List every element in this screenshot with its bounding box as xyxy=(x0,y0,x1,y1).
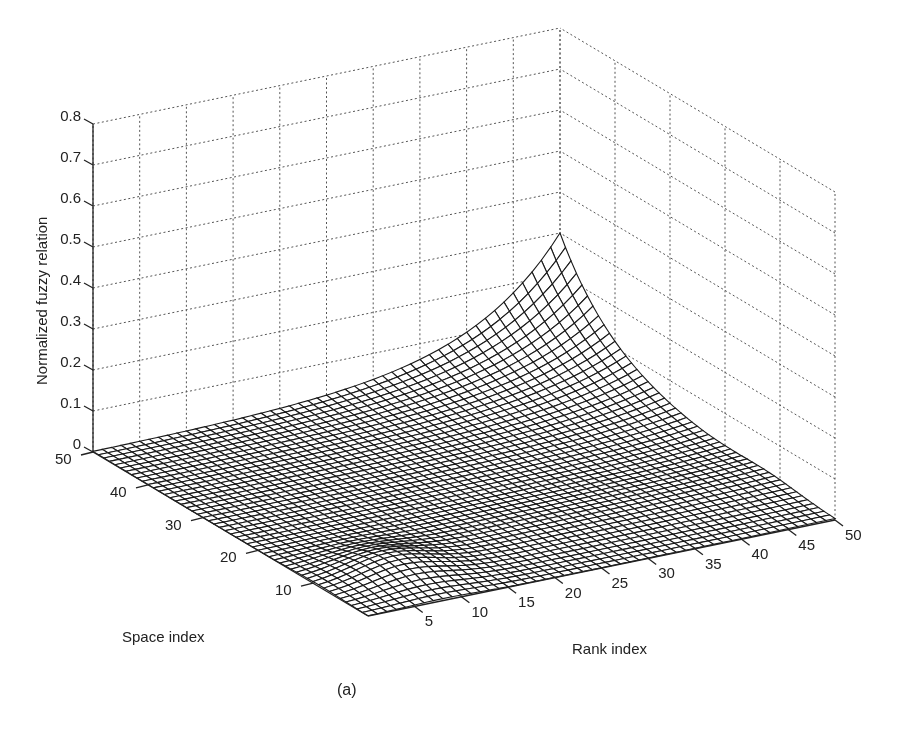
z-tick-label: 0.8 xyxy=(21,107,81,124)
y-tick-label: 40 xyxy=(110,483,127,500)
z-axis-label: Normalized fuzzy relation xyxy=(33,217,50,385)
x-tick-label: 30 xyxy=(658,564,675,581)
x-tick-label: 10 xyxy=(471,603,488,620)
y-axis-label: Space index xyxy=(122,628,205,645)
figure-caption: (a) xyxy=(337,681,357,699)
x-tick-label: 45 xyxy=(798,536,815,553)
z-tick-label: 0.3 xyxy=(21,312,81,329)
x-tick-label: 20 xyxy=(565,584,582,601)
z-tick-label: 0 xyxy=(21,435,81,452)
x-tick-label: 35 xyxy=(705,555,722,572)
y-tick-label: 20 xyxy=(220,548,237,565)
z-tick-label: 0.6 xyxy=(21,189,81,206)
y-tick-label: 10 xyxy=(275,581,292,598)
z-tick-label: 0.5 xyxy=(21,230,81,247)
z-tick-label: 0.4 xyxy=(21,271,81,288)
x-axis-label: Rank index xyxy=(572,640,647,657)
x-tick-label: 15 xyxy=(518,593,535,610)
z-tick-label: 0.2 xyxy=(21,353,81,370)
x-tick-label: 40 xyxy=(752,545,769,562)
y-tick-label: 50 xyxy=(55,450,72,467)
x-tick-label: 5 xyxy=(425,612,433,629)
z-tick-label: 0.1 xyxy=(21,394,81,411)
x-tick-label: 50 xyxy=(845,526,862,543)
x-tick-label: 25 xyxy=(612,574,629,591)
y-tick-label: 30 xyxy=(165,516,182,533)
z-tick-label: 0.7 xyxy=(21,148,81,165)
